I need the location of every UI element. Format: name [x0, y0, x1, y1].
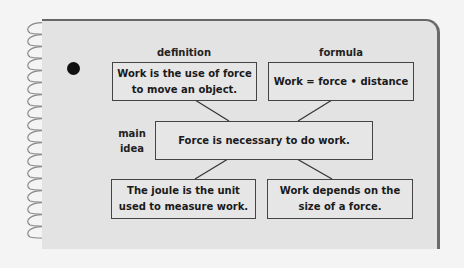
node-detail-left-text: The joule is the unit used to measure wo… — [116, 183, 251, 215]
label-definition: definition — [142, 47, 226, 59]
label-formula: formula — [299, 47, 383, 59]
node-main-idea: Force is necessary to do work. — [155, 121, 373, 160]
node-formula-text: Work = force • distance — [274, 74, 409, 90]
node-definition: Work is the use of force to move an obje… — [112, 62, 257, 101]
punch-hole-icon — [67, 62, 80, 75]
node-detail-right-text: Work depends on the size of a force. — [272, 183, 408, 215]
node-definition-text: Work is the use of force to move an obje… — [117, 66, 252, 98]
node-detail-left: The joule is the unit used to measure wo… — [111, 179, 256, 219]
node-main-idea-text: Force is necessary to do work. — [178, 133, 350, 149]
node-formula: Work = force • distance — [268, 62, 414, 101]
label-main-idea: main idea — [112, 126, 152, 156]
node-detail-right: Work depends on the size of a force. — [267, 179, 413, 219]
